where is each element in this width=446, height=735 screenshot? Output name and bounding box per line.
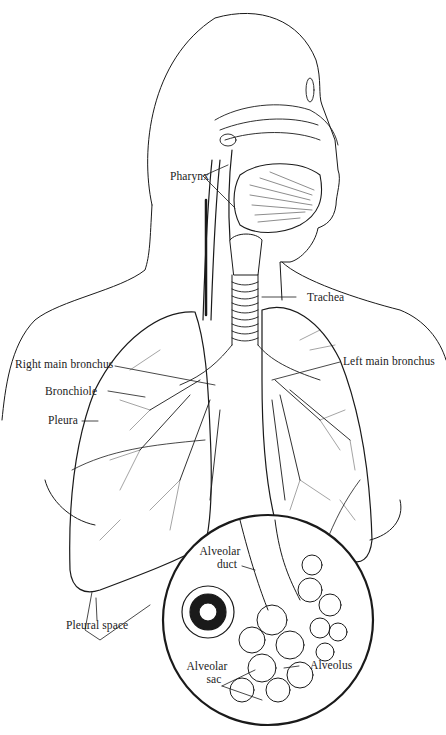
label-alveolar-duct-line1: Alveolar — [190, 545, 250, 558]
label-left-main-bronchus: Left main bronchus — [343, 355, 435, 368]
label-alveolar-duct: Alveolar duct — [190, 545, 250, 571]
label-right-main-bronchus: Right main bronchus — [15, 358, 113, 371]
label-alveolar-duct-line2: duct — [190, 558, 250, 571]
label-bronchiole: Bronchiole — [45, 385, 97, 398]
label-alveolar-sac: Alveolar sac — [182, 660, 232, 686]
bronchi — [100, 330, 355, 540]
label-alveolar-sac-line1: Alveolar — [182, 660, 232, 673]
label-trachea: Trachea — [307, 291, 344, 304]
label-alveolar-sac-line2: sac — [182, 673, 232, 686]
body-outline — [2, 13, 446, 540]
nasal-oral-cavity — [215, 78, 338, 233]
label-pleural-space: Pleural space — [66, 619, 128, 632]
trachea — [230, 234, 262, 345]
label-pleura: Pleura — [48, 414, 78, 427]
label-pharynx: Pharynx — [170, 170, 209, 183]
label-alveolus: Alveolus — [310, 659, 352, 672]
